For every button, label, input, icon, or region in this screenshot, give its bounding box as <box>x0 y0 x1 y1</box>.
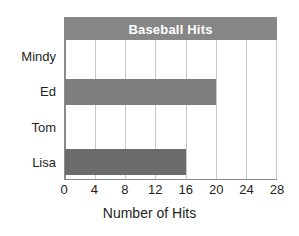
gridline-28 <box>276 40 277 179</box>
x-axis-title: Number of Hits <box>0 206 299 220</box>
bar-chart: Baseball Hits MindyEdTomLisa 04812162024… <box>0 0 299 236</box>
bar-row <box>65 75 276 110</box>
x-tick-20: 20 <box>209 183 223 196</box>
x-tick-4: 4 <box>91 183 98 196</box>
category-axis-labels: MindyEdTomLisa <box>0 39 60 180</box>
x-tick-16: 16 <box>178 183 192 196</box>
x-tick-8: 8 <box>121 183 128 196</box>
bar-row <box>65 144 276 179</box>
x-tick-28: 28 <box>270 183 284 196</box>
category-label-mindy: Mindy <box>0 39 60 74</box>
x-axis-tick-labels: 0481216202428 <box>64 183 277 201</box>
category-label-lisa: Lisa <box>0 145 60 180</box>
x-tick-24: 24 <box>239 183 253 196</box>
x-tick-12: 12 <box>148 183 162 196</box>
chart-title-banner: Baseball Hits <box>65 18 276 40</box>
x-tick-0: 0 <box>60 183 67 196</box>
bars-container <box>65 40 276 179</box>
category-label-ed: Ed <box>0 74 60 109</box>
bar-ed[interactable] <box>65 79 216 105</box>
plot-area: Baseball Hits <box>64 17 277 180</box>
bar-lisa[interactable] <box>65 149 186 175</box>
bar-row <box>65 40 276 75</box>
category-label-tom: Tom <box>0 110 60 145</box>
chart-title: Baseball Hits <box>128 23 212 36</box>
bar-row <box>65 110 276 145</box>
